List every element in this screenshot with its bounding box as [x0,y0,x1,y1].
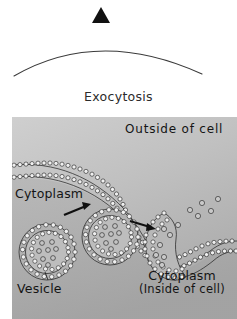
label-cytoplasm-inside-line1: Cytoplasm [148,268,215,283]
label-cytoplasm-inside-of-cell: Cytoplasm (Inside of cell) [129,269,235,295]
solid-triangle-icon [92,7,110,23]
label-cytoplasm-inside-line2: (Inside of cell) [129,283,235,295]
figure-page: Exocytosis [0,0,237,319]
label-vesicle: Vesicle [17,282,62,295]
label-cytoplasm-left: Cytoplasm [15,187,83,200]
arc-curve-icon [0,22,237,78]
exocytosis-illustration-panel: Outside of cell Cytoplasm Vesicle Cytopl… [12,117,237,319]
figure-header-zone: Exocytosis [0,0,237,117]
label-outside-of-cell: Outside of cell [125,123,223,136]
figure-caption: Exocytosis [0,89,237,104]
